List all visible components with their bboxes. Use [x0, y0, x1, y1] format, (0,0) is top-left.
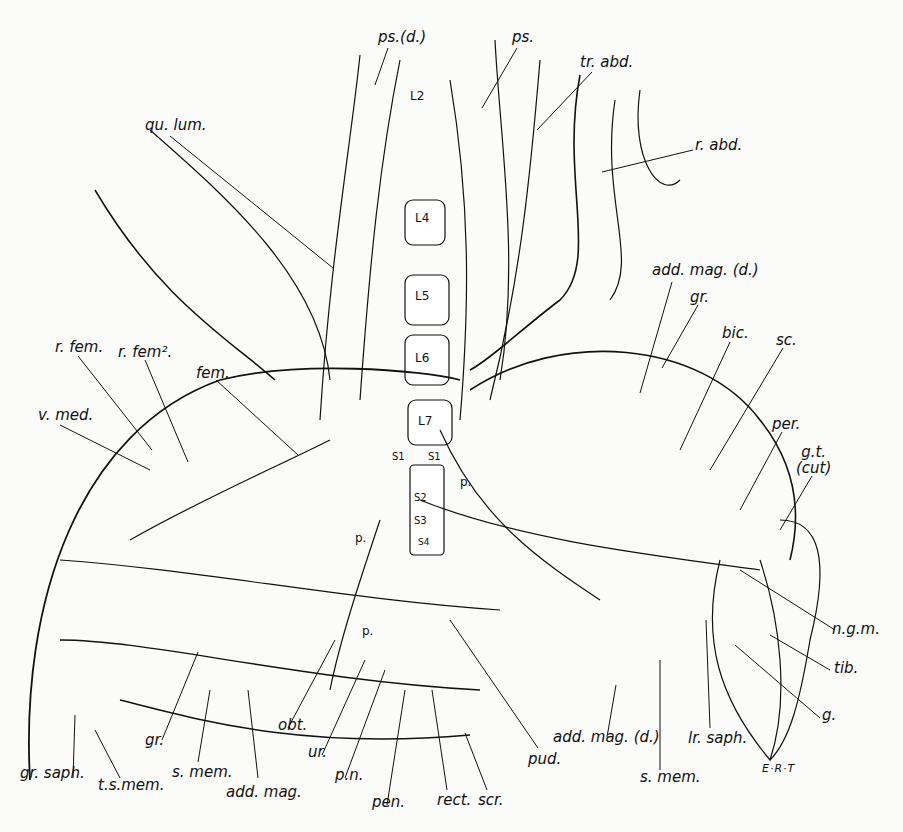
artist-signature: E·R·T [762, 762, 795, 775]
label-ps: ps. [512, 30, 534, 45]
label-lr-saph: lr. saph. [688, 731, 747, 746]
vertebra-label-l6: L6 [415, 352, 429, 364]
label-v-med: v. med. [38, 408, 93, 423]
label-p-1: p. [460, 476, 471, 488]
label-fem: fem. [196, 366, 230, 381]
label-tr-abd: tr. abd. [580, 55, 633, 70]
vertebra-label-s1-right: S1 [428, 452, 441, 462]
label-r-abd: r. abd. [695, 138, 742, 153]
label-gr-bottom: gr. [145, 733, 164, 748]
label-tib: tib. [834, 661, 858, 676]
vertebra-label-l2: L2 [410, 90, 424, 102]
label-ur: ur. [308, 745, 327, 760]
label-add-mag: add. mag. [226, 785, 302, 800]
vertebra-label-l7: L7 [418, 415, 432, 427]
vertebra-label-l4: L4 [415, 212, 429, 224]
label-t-s-mem: t.s.mem. [98, 778, 164, 793]
label-s-mem-right: s. mem. [640, 770, 701, 785]
vertebra-label-s4: S4 [418, 538, 429, 547]
anatomical-figure: L2 L4 L5 L6 L7 S1 S1 S2 S3 S4 ps.(d.) ps… [0, 0, 903, 832]
label-r-fem2: r. fem². [118, 345, 172, 360]
illustration-drawing [0, 0, 903, 832]
label-gr-top: gr. [690, 290, 709, 305]
label-pud: pud. [528, 752, 561, 767]
label-ps-d: ps.(d.) [378, 30, 426, 45]
label-r-fem: r. fem. [55, 340, 103, 355]
label-add-mag-d-bottom: add. mag. (d.) [553, 730, 660, 745]
label-p-3: p. [362, 625, 373, 637]
label-scr: scr. [478, 793, 504, 808]
label-sc: sc. [776, 333, 797, 348]
label-rect: rect. [437, 793, 471, 808]
vertebra-label-s1-left: S1 [392, 452, 405, 462]
label-obt: obt. [278, 718, 307, 733]
label-qu-lum: qu. lum. [145, 118, 207, 133]
label-gr-saph: gr. saph. [20, 766, 85, 781]
label-add-mag-d-top: add. mag. (d.) [652, 263, 759, 278]
label-s-mem-left: s. mem. [172, 765, 233, 780]
vertebra-label-s3: S3 [414, 516, 427, 526]
label-n-g-m: n.g.m. [832, 622, 880, 637]
label-g-t-cut: g.t. (cut) [796, 445, 831, 477]
label-p-2: p. [355, 532, 366, 544]
label-per: per. [772, 417, 800, 432]
label-pen: pen. [372, 795, 405, 810]
label-p-n: p.n. [335, 768, 364, 783]
label-g: g. [822, 708, 836, 723]
vertebra-label-l5: L5 [415, 290, 429, 302]
vertebra-label-s2: S2 [414, 493, 427, 503]
label-bic: bic. [722, 326, 749, 341]
